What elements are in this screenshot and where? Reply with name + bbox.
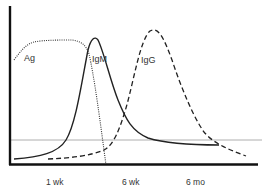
ag-label: Ag bbox=[24, 53, 35, 63]
x-tick-6mo: 6 mo bbox=[186, 177, 205, 187]
antibody-response-chart bbox=[0, 0, 265, 189]
igm-label: IgM bbox=[92, 54, 107, 64]
x-tick-1wk: 1 wk bbox=[46, 177, 63, 187]
igg-label: IgG bbox=[141, 55, 156, 65]
igm-curve bbox=[14, 38, 219, 159]
x-tick-6wk: 6 wk bbox=[122, 177, 139, 187]
